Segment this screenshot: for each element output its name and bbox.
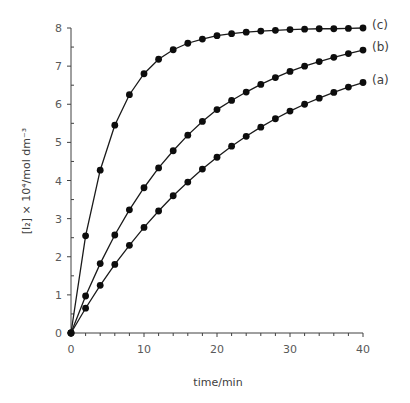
data-point [97, 260, 104, 267]
data-point [360, 79, 367, 86]
data-point [243, 29, 250, 36]
data-point [214, 106, 221, 113]
x-tick-label: 20 [210, 343, 224, 356]
data-point [126, 242, 133, 249]
data-point [82, 293, 89, 300]
data-point [257, 81, 264, 88]
x-tick-label: 10 [137, 343, 151, 356]
data-point [287, 108, 294, 115]
data-point [155, 56, 162, 63]
data-point [228, 143, 235, 150]
data-point [345, 50, 352, 57]
data-point [82, 232, 89, 239]
data-point [243, 133, 250, 140]
y-tick-label: 0 [55, 327, 62, 340]
data-point [170, 192, 177, 199]
data-point [214, 154, 221, 161]
data-point [184, 132, 191, 139]
data-point [126, 91, 133, 98]
y-tick-label: 4 [55, 175, 62, 188]
data-point [68, 330, 75, 337]
data-point [360, 25, 367, 32]
x-tick-label: 40 [356, 343, 370, 356]
series-b [68, 47, 367, 337]
series-layer [68, 25, 367, 337]
y-tick-label: 5 [55, 136, 62, 149]
data-point [214, 32, 221, 39]
y-tick-label: 2 [55, 251, 62, 264]
data-point [155, 208, 162, 215]
data-point [301, 26, 308, 33]
data-point [170, 147, 177, 154]
series-line [71, 50, 363, 333]
series-label: (b) [372, 40, 389, 54]
data-point [272, 115, 279, 122]
data-point [287, 26, 294, 33]
data-point [199, 118, 206, 125]
data-point [97, 167, 104, 174]
data-point [199, 36, 206, 43]
data-point [228, 30, 235, 37]
data-point [301, 101, 308, 108]
data-point [82, 305, 89, 312]
data-point [97, 282, 104, 289]
data-point [316, 58, 323, 65]
x-tick-label: 0 [68, 343, 75, 356]
data-point [141, 70, 148, 77]
data-point [141, 224, 148, 231]
y-tick-label: 8 [55, 22, 62, 35]
data-point [228, 97, 235, 104]
series-line [71, 28, 363, 333]
data-point [301, 63, 308, 70]
data-point [184, 179, 191, 186]
data-point [330, 54, 337, 61]
labels-layer: (a)(b)(c) [372, 18, 389, 87]
data-point [257, 124, 264, 131]
data-point [272, 27, 279, 34]
data-point [111, 261, 118, 268]
series-c [68, 25, 367, 337]
y-axis-title: [I₂] × 10⁴/mol dm⁻³ [20, 128, 33, 234]
chart: 012345678010203040 (a)(b)(c) time/min [I… [0, 0, 410, 403]
y-tick-label: 1 [55, 289, 62, 302]
data-point [126, 206, 133, 213]
series-label: (a) [372, 73, 389, 87]
data-point [111, 232, 118, 239]
data-point [345, 84, 352, 91]
x-tick-label: 30 [283, 343, 297, 356]
axes: 012345678010203040 [55, 22, 370, 356]
x-axis-title: time/min [193, 376, 242, 389]
series-a [68, 79, 367, 336]
data-point [170, 46, 177, 53]
data-point [360, 47, 367, 54]
data-point [316, 25, 323, 32]
series-line [71, 83, 363, 333]
data-point [345, 25, 352, 32]
y-tick-label: 6 [55, 98, 62, 111]
data-point [243, 89, 250, 96]
data-point [287, 68, 294, 75]
data-point [141, 184, 148, 191]
data-point [111, 122, 118, 129]
data-point [330, 89, 337, 96]
data-point [330, 25, 337, 32]
y-tick-label: 3 [55, 213, 62, 226]
y-tick-label: 7 [55, 60, 62, 73]
data-point [272, 74, 279, 81]
data-point [155, 165, 162, 172]
data-point [199, 166, 206, 173]
data-point [316, 95, 323, 102]
data-point [184, 40, 191, 47]
series-label: (c) [372, 18, 388, 32]
data-point [257, 28, 264, 35]
